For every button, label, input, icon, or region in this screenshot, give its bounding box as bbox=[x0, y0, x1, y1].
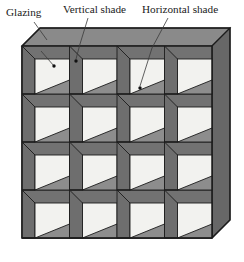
facade-assembly bbox=[22, 28, 230, 238]
figure-canvas: Glazing Vertical shade Horizontal shade bbox=[0, 0, 244, 262]
callout-label-horizontal-shade: Horizontal shade bbox=[142, 3, 218, 15]
wall-top-face bbox=[22, 28, 230, 46]
callout-dot-vertical-shade bbox=[74, 59, 77, 62]
shaded-glazing-figure: Glazing Vertical shade Horizontal shade bbox=[0, 0, 244, 262]
callout-dot-glazing bbox=[52, 64, 55, 67]
wall-right-face bbox=[212, 28, 230, 238]
callout-label-vertical-shade: Vertical shade bbox=[63, 3, 126, 15]
callout-label-glazing: Glazing bbox=[6, 6, 42, 18]
callout-dot-horizontal-shade bbox=[138, 86, 141, 89]
